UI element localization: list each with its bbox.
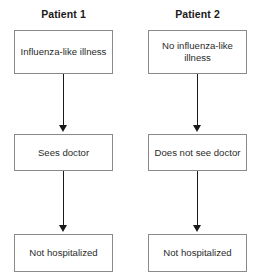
flowchart: Patient 1 Patient 2 Influenza-like illne…	[0, 0, 259, 279]
node-label: Does not see doctor	[152, 147, 244, 159]
arrow-icon-patient-1-doctor-to-hospitalization	[58, 171, 68, 232]
column-header-patient-1: Patient 1	[14, 8, 113, 20]
arrow-shaft	[63, 171, 64, 225]
arrow-shaft	[197, 74, 198, 125]
arrow-head	[59, 225, 67, 232]
arrow-icon-patient-2-illness-to-doctor	[192, 74, 202, 132]
arrow-shaft	[197, 171, 198, 225]
node-label: Sees doctor	[35, 147, 92, 159]
arrow-head	[59, 125, 67, 132]
node-label: Not hospitalized	[160, 247, 234, 259]
arrow-icon-patient-1-illness-to-doctor	[58, 74, 68, 132]
node-label: Influenza-like illness	[18, 46, 110, 58]
arrow-head	[193, 125, 201, 132]
arrow-head	[193, 225, 201, 232]
node-patient-2-illness: No influenza-like illness	[148, 30, 247, 74]
node-label: No influenza-like illness	[149, 40, 246, 63]
node-patient-2-doctor: Does not see doctor	[148, 134, 247, 171]
column-header-patient-2: Patient 2	[148, 8, 247, 20]
arrow-icon-patient-2-doctor-to-hospitalization	[192, 171, 202, 232]
arrow-shaft	[63, 74, 64, 125]
node-patient-1-hospitalization: Not hospitalized	[14, 234, 113, 272]
node-label: Not hospitalized	[26, 247, 100, 259]
node-patient-1-illness: Influenza-like illness	[14, 30, 113, 74]
node-patient-2-hospitalization: Not hospitalized	[148, 234, 247, 272]
node-patient-1-doctor: Sees doctor	[14, 134, 113, 171]
